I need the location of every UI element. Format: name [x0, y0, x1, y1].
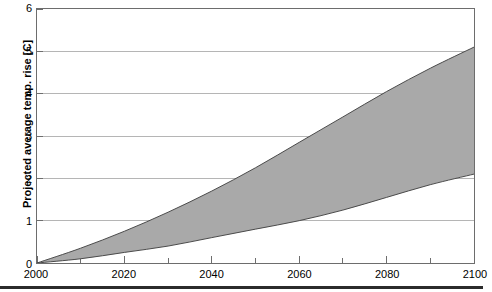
- y-tick-label: 4: [6, 87, 32, 99]
- plot-canvas: [37, 9, 474, 263]
- y-tick-label: 5: [6, 45, 32, 57]
- x-tick-label: 2080: [357, 268, 417, 280]
- x-tick-label: 2020: [94, 268, 154, 280]
- x-tick-label: 2100: [445, 268, 492, 280]
- y-tick-label: 3: [6, 130, 32, 142]
- y-tick-label: 1: [6, 215, 32, 227]
- x-tick-label: 2060: [269, 268, 329, 280]
- y-tick-label: 2: [6, 173, 32, 185]
- footer-rule: [0, 286, 483, 289]
- x-minor-ticks: [37, 258, 474, 263]
- x-tick-label: 2040: [182, 268, 242, 280]
- plot-area: [36, 8, 475, 264]
- x-tick-label: 2000: [6, 268, 66, 280]
- y-major-ticks: [37, 9, 43, 263]
- y-tick-label: 6: [6, 2, 32, 14]
- y-axis-title: Projected average temp. rise [C]: [21, 4, 33, 244]
